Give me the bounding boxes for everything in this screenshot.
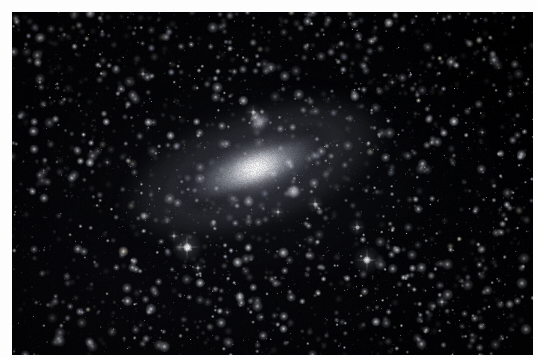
astrophoto-page: spiral galaxy with companion galaxies in…: [0, 0, 537, 358]
plate-grain-layer: [12, 12, 533, 355]
photo-plate: [12, 12, 533, 355]
